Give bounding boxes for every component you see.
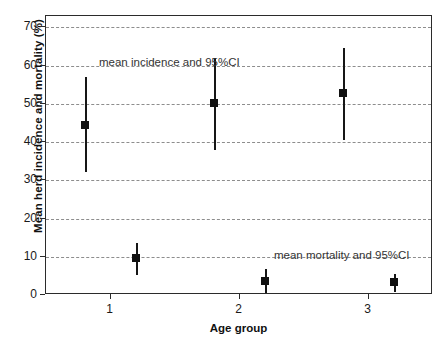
gridline [46,180,431,181]
x-tick-mark [239,294,240,299]
y-tick-label: 50 [11,97,37,109]
y-tick-mark [40,294,45,295]
y-tick-mark [40,65,45,66]
gridline [46,104,431,105]
x-tick-mark [368,294,369,299]
gridline [46,142,431,143]
annotation-mortality: mean mortality and 95%CI [274,249,410,262]
chart-container: Mean herd incidence and mortality (%) me… [0,0,443,346]
gridline [46,219,431,220]
y-tick-mark [40,179,45,180]
data-point-marker [81,121,89,129]
y-tick-label: 10 [11,250,37,262]
x-axis-title: Age group [45,322,432,334]
y-tick-label: 30 [11,173,37,185]
x-tick-mark [110,294,111,299]
data-point-marker [390,278,398,286]
data-point-marker [339,89,347,97]
data-point-marker [210,99,218,107]
gridline [46,27,431,28]
y-tick-label: 20 [11,212,37,224]
data-point-marker [261,277,269,285]
data-point-marker [132,254,140,262]
x-tick-label: 1 [98,303,122,315]
plot-area: mean incidence and 95%CI mean mortality … [45,15,432,294]
y-tick-label: 60 [11,59,37,71]
y-tick-label: 70 [11,20,37,32]
y-axis-title: Mean herd incidence and mortality (%) [32,16,44,236]
x-tick-label: 3 [356,303,380,315]
y-tick-label: 40 [11,135,37,147]
annotation-incidence: mean incidence and 95%CI [99,56,240,69]
y-tick-mark [40,103,45,104]
y-tick-label: 0 [11,288,37,300]
y-tick-mark [40,256,45,257]
x-tick-label: 2 [227,303,251,315]
y-tick-mark [40,141,45,142]
y-tick-mark [40,218,45,219]
y-tick-mark [40,26,45,27]
